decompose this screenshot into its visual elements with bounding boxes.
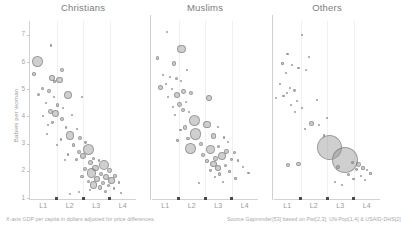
data-bubble xyxy=(228,170,230,172)
data-bubble xyxy=(233,151,236,154)
data-bubble xyxy=(65,126,67,128)
data-bubble xyxy=(67,153,70,156)
x-tick-mark xyxy=(230,197,233,200)
data-bubble xyxy=(174,114,176,116)
data-bubble xyxy=(279,83,281,85)
data-bubble xyxy=(72,143,75,146)
x-axis-footnote: X-axis GDP per capita in dollars adjuste… xyxy=(6,216,155,222)
data-bubble xyxy=(64,91,72,99)
data-bubble xyxy=(90,181,97,188)
x-tick-label-l4: L4 xyxy=(113,202,133,209)
data-bubble xyxy=(242,166,244,168)
data-bubble xyxy=(201,153,205,157)
x-tick-label-l3: L3 xyxy=(330,202,350,209)
data-bubble xyxy=(186,69,188,71)
data-bubble xyxy=(218,152,226,160)
data-bubble xyxy=(190,128,202,140)
data-bubble xyxy=(62,107,64,109)
data-bubble xyxy=(286,53,289,56)
y-tick-label: 4 xyxy=(11,113,25,120)
data-bubble xyxy=(301,34,303,36)
data-bubble xyxy=(289,87,291,89)
data-bubble xyxy=(318,124,320,126)
data-bubble xyxy=(66,131,74,139)
data-bubble xyxy=(188,111,190,113)
data-bubble xyxy=(56,103,59,106)
x-tick-mark xyxy=(55,197,58,200)
panel-title-christians: Christians xyxy=(30,2,136,13)
data-bubble xyxy=(301,107,303,109)
data-bubble xyxy=(297,67,300,70)
data-bubble xyxy=(186,137,189,140)
x-tick-label-l2: L2 xyxy=(304,202,324,209)
data-bubble xyxy=(60,68,64,72)
data-bubble xyxy=(78,191,80,193)
data-bubble xyxy=(80,175,83,178)
data-bubble xyxy=(275,97,277,99)
panel-title-muslims: Muslims xyxy=(152,2,258,13)
x-tick-mark xyxy=(177,197,180,200)
data-bubble xyxy=(166,31,168,33)
data-bubble xyxy=(174,92,180,98)
x-tick-mark xyxy=(299,197,302,200)
data-bubble xyxy=(369,172,371,174)
data-bubble xyxy=(332,147,358,173)
data-bubble xyxy=(217,126,219,128)
data-bubble xyxy=(81,96,83,98)
data-bubble xyxy=(69,193,71,195)
y-tick-label: 3 xyxy=(11,140,25,147)
data-bubble xyxy=(282,95,284,97)
data-bubble xyxy=(218,172,221,175)
data-bubble xyxy=(113,187,115,189)
x-tick-label-l1: L1 xyxy=(33,202,53,209)
data-bubble xyxy=(37,93,40,96)
data-bubble xyxy=(104,190,107,193)
data-bubble xyxy=(234,177,237,180)
x-tick-mark xyxy=(204,197,207,200)
y-tick-label: 2 xyxy=(11,167,25,174)
x-tick-label-l1: L1 xyxy=(155,202,175,209)
data-bubble xyxy=(227,141,229,143)
data-bubble xyxy=(181,89,186,94)
data-bubble xyxy=(189,91,193,95)
data-bubble xyxy=(169,76,172,79)
data-bubble xyxy=(296,162,300,166)
data-bubble xyxy=(209,169,212,172)
data-bubble xyxy=(32,72,36,76)
data-bubble xyxy=(355,168,358,171)
data-bubble xyxy=(156,56,159,59)
x-tick-label-l2: L2 xyxy=(182,202,202,209)
data-bubble xyxy=(364,179,366,181)
data-bubble xyxy=(341,184,343,186)
x-tick-label-l4: L4 xyxy=(235,202,255,209)
plot-area-muslims xyxy=(152,19,258,200)
data-bubble xyxy=(158,85,163,90)
data-bubble xyxy=(305,69,307,71)
data-bubble xyxy=(183,125,187,129)
data-bubble xyxy=(211,133,216,138)
x-tick-label-l3: L3 xyxy=(208,202,228,209)
data-bubble xyxy=(185,143,196,154)
data-bubble xyxy=(181,108,185,112)
data-bubble xyxy=(53,96,55,98)
data-bubble xyxy=(291,64,293,66)
data-bubble xyxy=(118,181,121,184)
data-bubble xyxy=(56,77,62,83)
data-bubble xyxy=(285,72,287,74)
data-bubble xyxy=(224,164,227,167)
data-bubble xyxy=(101,181,105,185)
plot-area-others xyxy=(274,19,380,200)
data-bubble xyxy=(76,128,78,130)
data-bubble xyxy=(172,106,174,108)
data-bubble xyxy=(308,56,310,58)
data-bubble xyxy=(75,158,78,161)
data-bubble xyxy=(206,95,212,101)
data-bubble xyxy=(120,192,122,194)
y-tick-label: 1 xyxy=(11,195,25,202)
data-bubble xyxy=(45,102,48,105)
data-bubble xyxy=(230,158,233,161)
data-bubble xyxy=(206,145,215,154)
x-tick-mark xyxy=(82,197,85,200)
panel-separator xyxy=(272,15,273,200)
data-bubble xyxy=(52,110,59,117)
